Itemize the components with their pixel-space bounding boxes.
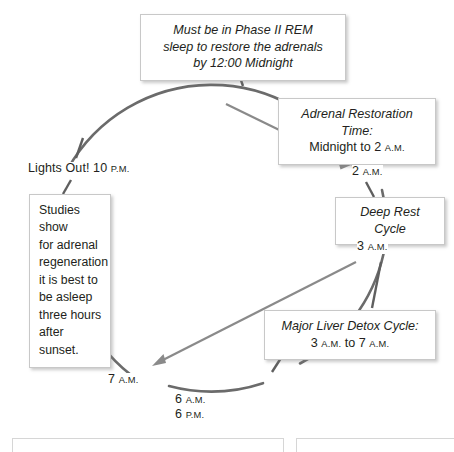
time-label-6am-text: 6 — [175, 392, 186, 406]
callout-liver-line1: Major Liver Detox Cycle: — [281, 319, 418, 333]
callout-liver-line2-b: to 7 — [341, 336, 369, 350]
bottom-edge-box-right — [296, 438, 454, 452]
callout-rem-sleep: Must be in Phase II REM sleep to restore… — [140, 14, 346, 81]
callout-studies-line6: three hours — [39, 308, 101, 322]
callout-studies-line4: it is best to — [39, 273, 98, 287]
callout-adrenal-restoration: Adrenal Restoration Time: Midnight to 2 … — [278, 98, 436, 165]
time-label-lights-out: Lights Out! 10 P.M. — [28, 162, 130, 176]
time-label-3am-text: 3 — [357, 239, 368, 253]
callout-rem-line1: Must be in Phase II REM — [173, 23, 312, 37]
callout-deeprest-line1: Deep Rest Cycle — [360, 205, 420, 236]
connector-2am-deeprest — [366, 182, 374, 197]
time-label-7am-text: 7 — [108, 372, 119, 386]
callout-adrenal-line1: Adrenal Restoration Time: — [301, 107, 412, 138]
callout-studies-line2: for adrenal — [39, 238, 98, 252]
time-label-2am: 2 A.M. — [352, 165, 383, 179]
time-label-7am: 7 A.M. — [108, 373, 139, 387]
callout-adrenal-line2: Midnight to 2 — [309, 140, 385, 154]
time-label-6am: 6 A.M. — [175, 393, 206, 407]
diagram-canvas: Must be in Phase II REM sleep to restore… — [0, 0, 454, 452]
callout-liver-line2-sc1: A.M. — [321, 339, 341, 349]
callout-deep-rest-cycle: Deep Rest Cycle — [335, 197, 445, 245]
callout-adrenal-line2-sc: A.M. — [385, 143, 405, 153]
callout-studies-line7: after sunset. — [39, 325, 79, 356]
time-label-6pm-text: 6 — [175, 407, 186, 421]
callout-liver-line2-sc2: A.M. — [369, 339, 389, 349]
time-label-lights-out-meridiem: P.M. — [111, 164, 130, 174]
callout-studies-line3: regeneration — [39, 255, 108, 269]
callout-rem-line3: by 12:00 Midnight — [193, 56, 292, 70]
callout-studies-line5: be asleep — [39, 290, 92, 304]
time-label-2am-text: 2 — [352, 164, 363, 178]
callout-rem-line2: sleep to restore the adrenals — [163, 40, 323, 54]
connector-lightsout-studies — [63, 180, 71, 194]
callout-liver-detox: Major Liver Detox Cycle: 3 A.M. to 7 A.M… — [264, 310, 436, 360]
time-label-7am-meridiem: A.M. — [119, 375, 139, 385]
time-label-6pm-meridiem: P.M. — [186, 410, 205, 420]
callout-liver-line2-a: 3 — [311, 336, 322, 350]
time-label-2am-meridiem: A.M. — [363, 167, 383, 177]
time-label-6pm: 6 P.M. — [175, 408, 204, 422]
callout-studies-line1: Studies show — [39, 203, 80, 234]
callout-studies-show: Studies show for adrenal regeneration it… — [29, 194, 111, 368]
time-label-lights-out-text: Lights Out! 10 — [28, 161, 111, 175]
bottom-edge-box-left — [12, 438, 284, 452]
time-label-3am-meridiem: A.M. — [368, 242, 388, 252]
time-label-6am-meridiem: A.M. — [186, 395, 206, 405]
time-label-3am: 3 A.M. — [357, 240, 388, 254]
